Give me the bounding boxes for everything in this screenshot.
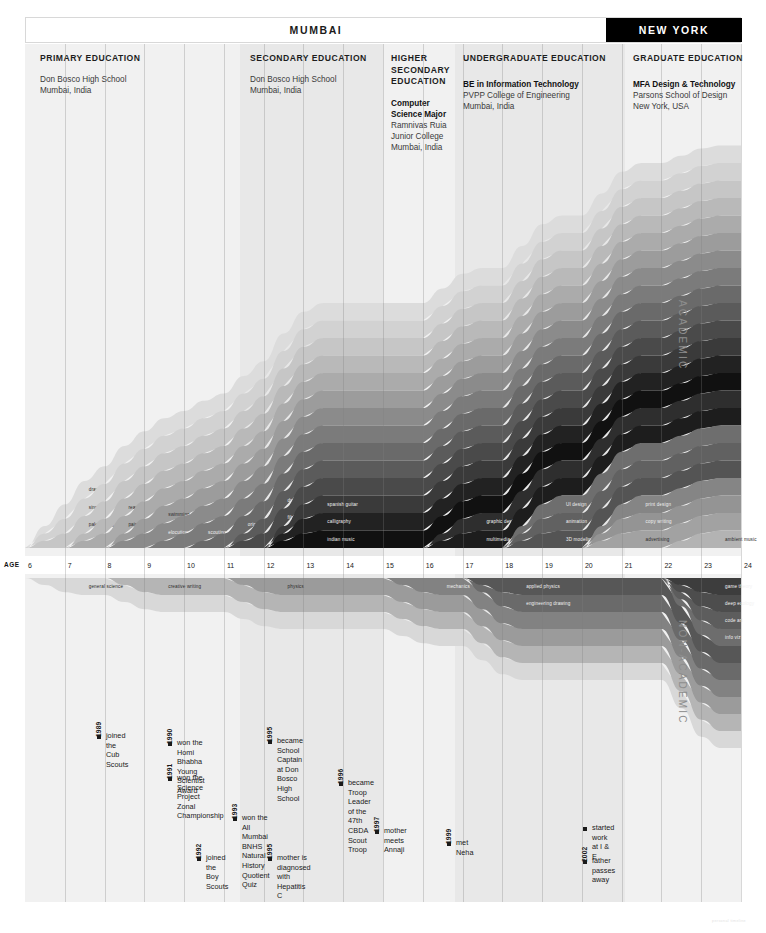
gridline <box>463 44 464 902</box>
gridline <box>264 44 265 902</box>
stream-label: physics <box>288 584 305 589</box>
stream-label: info viz <box>725 635 741 640</box>
event-text: became Troop Leader of the 47th CBDA Sco… <box>348 778 374 855</box>
stream-label: game theory <box>725 584 753 589</box>
gridline <box>65 44 66 902</box>
event-text: mother meets Annaji <box>384 826 407 855</box>
stream-label: engineering drawing <box>526 601 571 606</box>
event-bullet-icon <box>583 827 587 831</box>
event-text: became School Captain at Don Bosco High … <box>277 736 303 803</box>
stream-label: applied physics <box>526 584 560 589</box>
event-text: father passes away <box>592 856 615 885</box>
gridline <box>383 44 384 902</box>
event-year: 1995 <box>266 844 273 859</box>
event-year: 1993 <box>231 804 238 819</box>
gridline <box>105 44 106 902</box>
event-year: 2002 <box>581 847 588 862</box>
gridline <box>224 44 225 902</box>
event-text: met Neha <box>456 838 473 857</box>
non-academic-side-label: NON-ACADEMIC <box>677 620 688 725</box>
event-text: won the Science Project Zonal Championsh… <box>177 773 224 821</box>
gridline <box>741 44 742 902</box>
infographic-page: MUMBAI NEW YORK PRIMARY EDUCATION Don Bo… <box>0 0 766 933</box>
gridline <box>582 44 583 902</box>
gridline <box>144 44 145 902</box>
event-year: 1991 <box>166 764 173 779</box>
event-year: 1995 <box>266 727 273 742</box>
stream-label: deep ecology <box>725 601 755 606</box>
gridline <box>622 44 623 902</box>
gridline <box>303 44 304 902</box>
event-year: 1990 <box>166 729 173 744</box>
event-year: 1989 <box>95 722 102 737</box>
event-text: mother is diagnosed with Hepatitis C <box>277 853 311 901</box>
event-year: 1999 <box>445 829 452 844</box>
gridline <box>701 44 702 902</box>
event-year: 1992 <box>195 844 202 859</box>
footer-note: personal timeline <box>712 919 746 923</box>
event-year: 1997 <box>373 817 380 832</box>
stream-label: general science <box>89 584 124 589</box>
gridline <box>542 44 543 902</box>
gridline <box>502 44 503 902</box>
gridline <box>661 44 662 902</box>
event-year: 1996 <box>337 769 344 784</box>
stream-label: mechanics <box>447 584 471 589</box>
academic-side-label: ACADEMIC <box>677 300 688 370</box>
gridline <box>423 44 424 902</box>
event-text: joined the Boy Scouts <box>206 853 228 891</box>
event-text: joined the Cub Scouts <box>106 731 128 769</box>
